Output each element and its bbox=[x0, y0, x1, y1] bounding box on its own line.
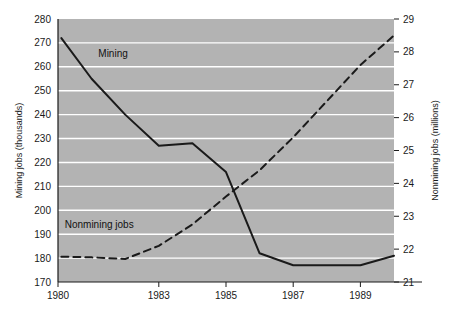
series-label-nonmining-jobs: Nonmining jobs bbox=[65, 219, 134, 230]
y-axis-left-tick-label: 270 bbox=[34, 37, 51, 48]
y-axis-left-tick-label: 250 bbox=[34, 85, 51, 96]
series-label-mining: Mining bbox=[98, 48, 127, 59]
y-axis-left-tick-label: 280 bbox=[34, 14, 51, 25]
y-axis-left-tick-label: 200 bbox=[34, 205, 51, 216]
y-axis-left-tick-label: 260 bbox=[34, 61, 51, 72]
line-chart-svg: 170180190200210220230240250260270280 212… bbox=[0, 0, 454, 317]
y-axis-left-tick-label: 190 bbox=[34, 229, 51, 240]
y-axis-right-ticks: 212223242526272829 bbox=[394, 14, 415, 288]
y-axis-left-tick-label: 240 bbox=[34, 109, 51, 120]
y-axis-left-ticks: 170180190200210220230240250260270280 bbox=[34, 14, 51, 288]
y-axis-right-title: Nonmining jobs (millions) bbox=[430, 100, 440, 201]
y-axis-right-tick-label: 24 bbox=[403, 178, 415, 189]
y-axis-right-tick-label: 29 bbox=[403, 14, 415, 25]
y-axis-right-tick-label: 25 bbox=[403, 145, 415, 156]
y-axis-left-tick-label: 180 bbox=[34, 253, 51, 264]
y-axis-right-tick-label: 27 bbox=[403, 79, 415, 90]
y-axis-left-tick-label: 230 bbox=[34, 133, 51, 144]
y-axis-left-tick-label: 210 bbox=[34, 181, 51, 192]
y-axis-right-tick-label: 28 bbox=[403, 46, 415, 57]
x-axis-tick-label: 1989 bbox=[349, 290, 372, 301]
y-axis-left-tick-label: 220 bbox=[34, 157, 51, 168]
x-axis-tick-label: 1987 bbox=[282, 290, 305, 301]
x-axis-tick-label: 1983 bbox=[148, 290, 171, 301]
y-axis-left-title: Mining jobs (thousands) bbox=[14, 103, 24, 199]
x-axis-ticks: 19801983198519871989 bbox=[47, 282, 372, 301]
x-axis-tick-label: 1980 bbox=[47, 290, 70, 301]
x-axis-tick-label: 1985 bbox=[215, 290, 238, 301]
y-axis-right-tick-label: 23 bbox=[403, 211, 415, 222]
y-axis-left-tick-label: 170 bbox=[34, 277, 51, 288]
chart-figure: 170180190200210220230240250260270280 212… bbox=[0, 0, 454, 317]
y-axis-right-tick-label: 22 bbox=[403, 244, 415, 255]
y-axis-right-tick-label: 26 bbox=[403, 112, 415, 123]
